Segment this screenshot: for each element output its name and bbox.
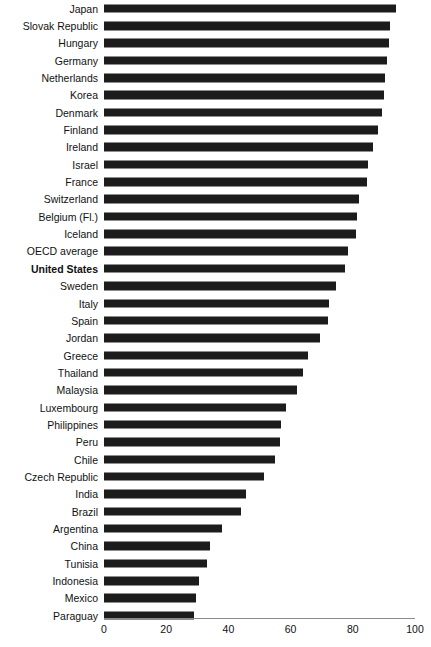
category-label: Italy (79, 298, 98, 309)
category-label: Thailand (58, 367, 98, 378)
bar-row: India (0, 486, 431, 503)
category-label: Israel (72, 159, 98, 170)
category-label: Slovak Republic (23, 21, 98, 32)
category-label: Czech Republic (24, 471, 98, 482)
x-axis-tick-label: 20 (160, 623, 172, 635)
bar-track (104, 281, 415, 292)
category-label: Belgium (Fl.) (38, 211, 98, 222)
bar (104, 490, 246, 499)
x-axis-tick-label: 0 (101, 623, 107, 635)
bar-row: Ireland (0, 139, 431, 156)
bar-track (104, 73, 415, 84)
category-label: Tunisia (65, 558, 98, 569)
bar (104, 594, 196, 603)
bar (104, 455, 275, 464)
bar-track (104, 298, 415, 309)
bar-row: Finland (0, 121, 431, 138)
bar-row: Hungary (0, 35, 431, 52)
category-label: OECD average (27, 246, 98, 257)
bar (104, 143, 373, 152)
bar-row: Thailand (0, 364, 431, 381)
category-label: United States (31, 263, 98, 274)
bar (104, 195, 359, 204)
bar-row: Argentina (0, 520, 431, 537)
x-axis-line (104, 618, 415, 619)
category-label: Jordan (66, 333, 98, 344)
bar (104, 299, 329, 308)
bar (104, 420, 281, 429)
bar-row: Greece (0, 347, 431, 364)
bar-track (104, 402, 415, 413)
x-axis-tick-label: 60 (285, 623, 297, 635)
bar-track (104, 333, 415, 344)
bar-row: Czech Republic (0, 468, 431, 485)
category-label: China (71, 541, 98, 552)
bar-track (104, 437, 415, 448)
category-label: Spain (71, 315, 98, 326)
category-label: Luxembourg (40, 402, 98, 413)
category-label: Brazil (72, 506, 98, 517)
category-label: Philippines (47, 419, 98, 430)
bar (104, 542, 210, 551)
bar-track (104, 489, 415, 500)
category-label: Japan (69, 3, 98, 14)
bar-track (104, 55, 415, 66)
bar (104, 507, 241, 516)
bar-track (104, 315, 415, 326)
bar (104, 4, 396, 13)
category-label: France (65, 177, 98, 188)
bar-row: Korea (0, 87, 431, 104)
bar-row: Sweden (0, 278, 431, 295)
bar-row: Japan (0, 0, 431, 17)
bar-row: OECD average (0, 243, 431, 260)
bar (104, 108, 382, 117)
x-axis-tick-label: 40 (223, 623, 235, 635)
plot-area: JapanSlovak RepublicHungaryGermanyNether… (0, 0, 431, 614)
category-label: India (75, 489, 98, 500)
category-label: Argentina (53, 523, 98, 534)
bar-track (104, 593, 415, 604)
bar (104, 247, 348, 256)
bar-track (104, 211, 415, 222)
bar-row: Luxembourg (0, 399, 431, 416)
bar-row: China (0, 538, 431, 555)
bar-track (104, 125, 415, 136)
bar-row: Denmark (0, 104, 431, 121)
bar (104, 438, 280, 447)
bar (104, 39, 389, 48)
bar-track (104, 38, 415, 49)
bar-track (104, 506, 415, 517)
bar (104, 559, 207, 568)
bar-row: Italy (0, 295, 431, 312)
bar-track (104, 471, 415, 482)
bar-track (104, 523, 415, 534)
bar (104, 386, 297, 395)
bar (104, 334, 320, 343)
bar-row: Mexico (0, 590, 431, 607)
bar-row: Switzerland (0, 191, 431, 208)
bar-row: Peru (0, 434, 431, 451)
bar-track (104, 419, 415, 430)
bar-row: Philippines (0, 416, 431, 433)
bar-track (104, 576, 415, 587)
bar (104, 22, 390, 31)
bar (104, 230, 356, 239)
bar (104, 524, 222, 533)
bar-row: Slovak Republic (0, 17, 431, 34)
bar-track (104, 385, 415, 396)
bar-chart: JapanSlovak RepublicHungaryGermanyNether… (0, 0, 431, 647)
bar-row: Malaysia (0, 382, 431, 399)
bar-track (104, 159, 415, 170)
bar-row: Netherlands (0, 69, 431, 86)
bar (104, 316, 328, 325)
bar-track (104, 246, 415, 257)
bar (104, 472, 264, 481)
category-label: Indonesia (52, 576, 98, 587)
bar-row: Spain (0, 312, 431, 329)
bar (104, 74, 385, 83)
bar (104, 160, 368, 169)
bar-track (104, 541, 415, 552)
bar-row: Germany (0, 52, 431, 69)
bar-track (104, 229, 415, 240)
bar (104, 91, 384, 100)
